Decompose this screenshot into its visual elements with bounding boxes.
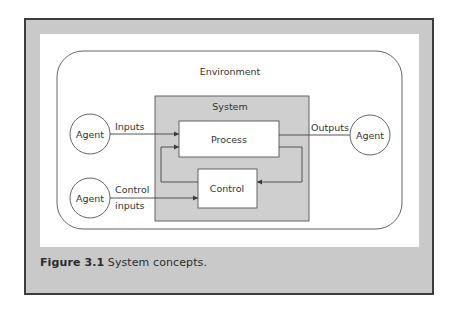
inputs-label: Inputs [115,121,145,132]
environment-label: Environment [200,66,261,77]
figure-caption: Figure 3.1 System concepts. [40,256,207,269]
figure-caption-text: System concepts. [104,256,207,269]
agent-outputs-label: Agent [356,130,384,141]
outputs-label: Outputs [311,122,349,133]
process-label: Process [211,134,247,145]
agent-control-node: Agent [70,178,110,218]
figure-number: Figure 3.1 [40,256,104,269]
control-label: Control [210,183,244,194]
control-inputs-label-line1: Control [115,184,149,195]
agent-control-label: Agent [76,193,104,204]
agent-outputs-node: Agent [350,115,390,155]
agent-inputs-node: Agent [70,114,110,154]
system-label: System [212,101,247,112]
control-inputs-label-line2: inputs [115,200,144,211]
agent-inputs-label: Agent [76,129,104,140]
